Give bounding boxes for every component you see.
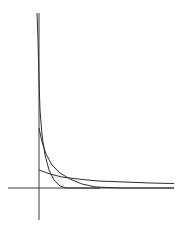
curves-group [37,13,174,188]
chart [0,0,184,231]
curve-steep [37,13,100,188]
curve-medium [39,128,174,188]
